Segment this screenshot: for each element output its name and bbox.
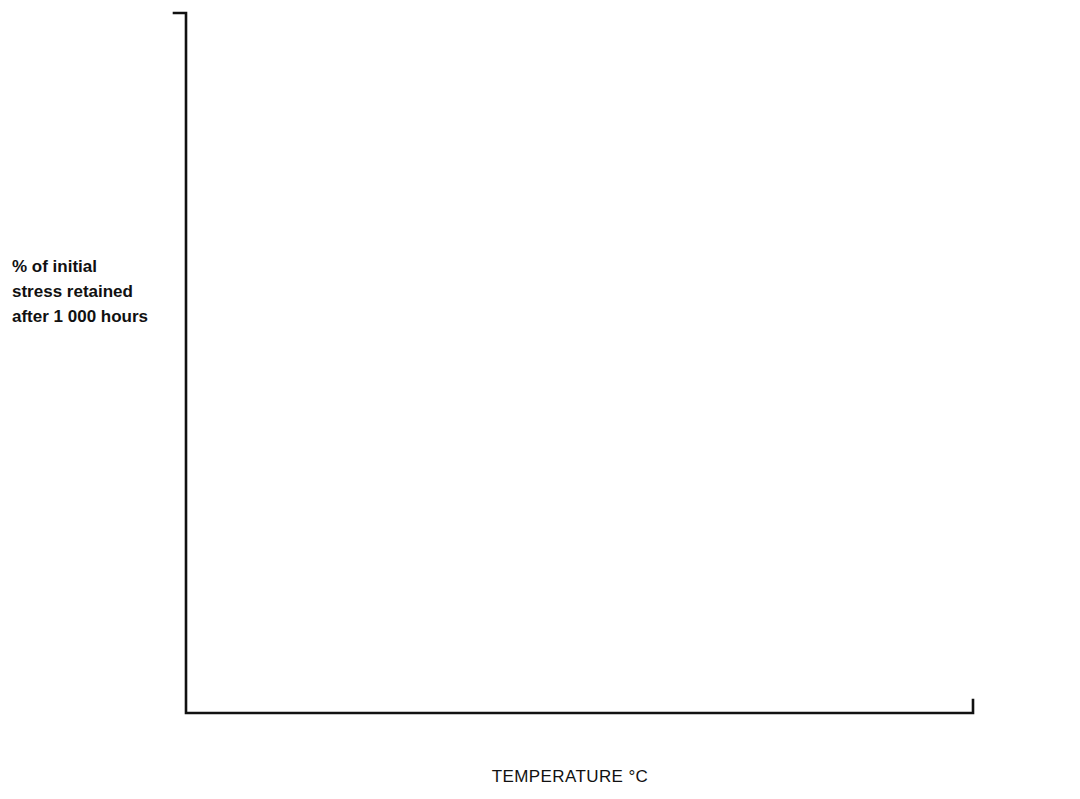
chart-axes xyxy=(174,13,973,713)
y-axis-caption-line-1: % of initial xyxy=(12,257,97,276)
stress-relaxation-chart: % of initial stress retained after 1 000… xyxy=(0,0,1080,799)
axes-group xyxy=(174,13,973,713)
x-axis-title: TEMPERATURE °C xyxy=(492,767,649,786)
y-axis-caption-line-2: stress retained xyxy=(12,282,133,301)
chart-canvas: % of initial stress retained after 1 000… xyxy=(0,0,1080,799)
y-axis-caption-line-3: after 1 000 hours xyxy=(12,307,148,326)
